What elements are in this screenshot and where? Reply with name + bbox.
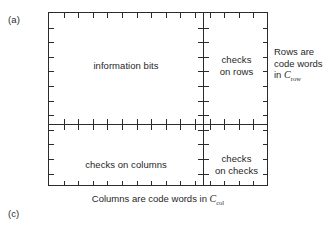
tick-right	[263, 130, 268, 131]
tick-bottom	[210, 181, 211, 186]
tick-bottom	[93, 181, 94, 186]
tick-right	[263, 28, 268, 29]
row-code-caption: Rows are code words in Crow	[274, 46, 333, 84]
tick-top	[210, 13, 211, 18]
column-code-subscript: col	[216, 199, 224, 206]
tick-horizontal-divider-up	[224, 119, 225, 124]
tick-bottom	[137, 181, 138, 186]
tick-vertical-divider-left	[198, 28, 203, 29]
tick-bottom	[166, 181, 167, 186]
tick-bottom	[253, 181, 254, 186]
panel-label-a: (a)	[8, 14, 20, 25]
tick-right	[263, 144, 268, 145]
tick-left	[49, 57, 54, 58]
tick-vertical-divider-right	[204, 130, 209, 131]
row-caption-line2: code words	[274, 58, 323, 69]
tick-top	[166, 13, 167, 18]
tick-top	[107, 13, 108, 18]
tick-right	[263, 42, 268, 43]
tick-horizontal-divider-up	[78, 119, 79, 124]
column-caption-text: Columns are code words in	[92, 193, 210, 204]
tick-vertical-divider-right	[204, 28, 209, 29]
tick-horizontal-divider-up	[137, 119, 138, 124]
tick-top	[239, 13, 240, 18]
tick-top	[195, 13, 196, 18]
quadrant-information-bits: information bits	[49, 60, 203, 72]
tick-horizontal-divider-down	[195, 125, 196, 130]
tick-right	[263, 115, 268, 116]
tick-top	[78, 13, 79, 18]
tick-left	[49, 174, 54, 175]
tick-left	[49, 101, 54, 102]
tick-left	[49, 71, 54, 72]
tick-horizontal-divider-up	[107, 119, 108, 124]
tick-bottom	[195, 181, 196, 186]
tick-bottom	[224, 181, 225, 186]
tick-horizontal-divider-up	[122, 119, 123, 124]
quadrant-checks-on-columns: checks on columns	[49, 159, 203, 171]
tick-horizontal-divider-down	[93, 125, 94, 130]
tick-top	[180, 13, 181, 18]
tick-horizontal-divider-down	[166, 125, 167, 130]
row-caption-line1: Rows are	[274, 46, 314, 57]
tick-top	[137, 13, 138, 18]
tick-vertical-divider-right	[204, 86, 209, 87]
product-code-array-box: information bits checks on rows checks o…	[48, 12, 268, 186]
tick-left	[49, 130, 54, 131]
tick-vertical-divider-right	[204, 101, 209, 102]
tick-bottom	[64, 181, 65, 186]
tick-horizontal-divider-up	[166, 119, 167, 124]
tick-horizontal-divider-up	[180, 119, 181, 124]
tick-bottom	[151, 181, 152, 186]
tick-top	[253, 13, 254, 18]
tick-bottom	[180, 181, 181, 186]
tick-top	[224, 13, 225, 18]
tick-top	[93, 13, 94, 18]
tick-horizontal-divider-down	[210, 125, 211, 130]
tick-bottom	[239, 181, 240, 186]
tick-horizontal-divider-up	[239, 119, 240, 124]
tick-bottom	[122, 181, 123, 186]
tick-horizontal-divider-up	[64, 119, 65, 124]
tick-left	[49, 144, 54, 145]
column-code-caption: Columns are code words in Ccol	[48, 193, 268, 208]
tick-horizontal-divider-up	[195, 119, 196, 124]
quadrant-checks-on-rows: checks on rows	[204, 54, 269, 77]
tick-vertical-divider-right	[204, 115, 209, 116]
figure-root: (a) (c) information bits checks on rows …	[0, 0, 333, 225]
tick-vertical-divider-left	[198, 144, 203, 145]
tick-horizontal-divider-down	[180, 125, 181, 130]
tick-vertical-divider-left	[198, 115, 203, 116]
tick-bottom	[78, 181, 79, 186]
tick-right	[263, 101, 268, 102]
tick-vertical-divider-right	[204, 144, 209, 145]
row-caption-line3-prefix: in	[274, 69, 284, 80]
tick-vertical-divider-left	[198, 130, 203, 131]
tick-right	[263, 86, 268, 87]
tick-horizontal-divider-down	[239, 125, 240, 130]
panel-label-c: (c)	[8, 208, 19, 219]
tick-horizontal-divider-down	[122, 125, 123, 130]
tick-horizontal-divider-up	[253, 119, 254, 124]
tick-horizontal-divider-up	[93, 119, 94, 124]
tick-horizontal-divider-down	[64, 125, 65, 130]
tick-top	[64, 13, 65, 18]
tick-horizontal-divider-up	[151, 119, 152, 124]
tick-vertical-divider-right	[204, 42, 209, 43]
horizontal-divider	[49, 124, 267, 125]
tick-bottom	[107, 181, 108, 186]
tick-horizontal-divider-down	[107, 125, 108, 130]
tick-top	[151, 13, 152, 18]
tick-vertical-divider-left	[198, 42, 203, 43]
tick-left	[49, 42, 54, 43]
tick-horizontal-divider-up	[210, 119, 211, 124]
row-code-subscript: row	[291, 75, 301, 82]
tick-left	[49, 115, 54, 116]
tick-horizontal-divider-down	[224, 125, 225, 130]
tick-horizontal-divider-down	[253, 125, 254, 130]
tick-vertical-divider-left	[198, 57, 203, 58]
tick-vertical-divider-left	[198, 71, 203, 72]
row-code-symbol: C	[284, 69, 291, 80]
tick-left	[49, 86, 54, 87]
tick-vertical-divider-left	[198, 86, 203, 87]
